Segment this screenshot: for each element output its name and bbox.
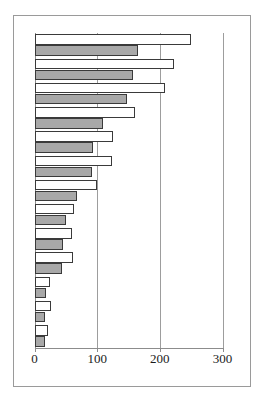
bar-white (35, 83, 165, 94)
bar-group (35, 324, 223, 348)
bar-group (35, 154, 223, 178)
bar-white (35, 180, 98, 191)
bar-white (35, 59, 174, 70)
bar-white (35, 131, 114, 142)
bar-group (35, 227, 223, 251)
plot-area (35, 33, 223, 348)
bar-gray (35, 239, 64, 250)
bar-group (35, 81, 223, 105)
bar-gray (35, 167, 93, 178)
x-axis-tick-label: 0 (31, 352, 38, 365)
bar-group (35, 300, 223, 324)
bar-group (35, 106, 223, 130)
bar-gray (35, 215, 66, 226)
bar-gray (35, 191, 78, 202)
bar-white (35, 107, 135, 118)
bar-gray (35, 336, 46, 347)
bar-gray (35, 263, 63, 274)
x-axis-tick-label: 100 (87, 352, 107, 365)
x-axis-tick-label: 300 (213, 352, 233, 365)
bar-white (35, 301, 51, 312)
x-axis-spine (35, 348, 223, 349)
bar-group (35, 275, 223, 299)
bar-white (35, 277, 51, 288)
bar-gray (35, 288, 47, 299)
x-axis-tick-label: 200 (150, 352, 170, 365)
bar-gray (35, 312, 46, 323)
bar-gray (35, 45, 138, 56)
bar-white (35, 325, 49, 336)
bar-white (35, 228, 73, 239)
bar-gray (35, 142, 94, 153)
bar-gray (35, 94, 127, 105)
bar-group (35, 130, 223, 154)
bar-group (35, 251, 223, 275)
bar-group (35, 178, 223, 202)
bar-group (35, 33, 223, 57)
bar-group (35, 203, 223, 227)
bar-group (35, 57, 223, 81)
bar-white (35, 204, 74, 215)
bar-white (35, 252, 74, 263)
bar-gray (35, 70, 133, 81)
gridline (223, 33, 224, 348)
figure-root: 0100200300 (0, 0, 268, 404)
bar-white (35, 34, 191, 45)
bar-white (35, 156, 113, 167)
bar-gray (35, 118, 104, 129)
